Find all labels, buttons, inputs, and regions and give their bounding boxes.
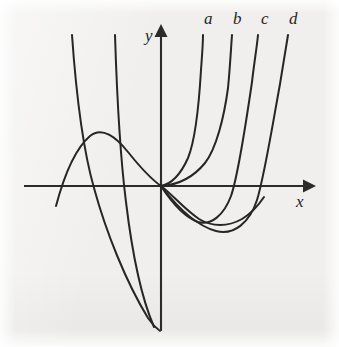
curve-odd-left-2: [115, 35, 154, 327]
curve-label-b: b: [233, 10, 242, 27]
graph-canvas: [0, 0, 339, 347]
curve-label-a: a: [204, 10, 213, 27]
figure-root: y x a b c d: [0, 0, 339, 347]
y-axis-label: y: [145, 27, 153, 44]
x-axis-label: x: [296, 193, 304, 210]
curve-label-d: d: [289, 10, 298, 27]
x-axis-arrowhead: [303, 180, 316, 193]
curve-label-c: c: [261, 10, 269, 27]
curve-c: [161, 35, 258, 223]
curve-b: [161, 35, 232, 186]
y-axis-arrowhead: [155, 24, 168, 37]
curve-a: [161, 35, 203, 186]
